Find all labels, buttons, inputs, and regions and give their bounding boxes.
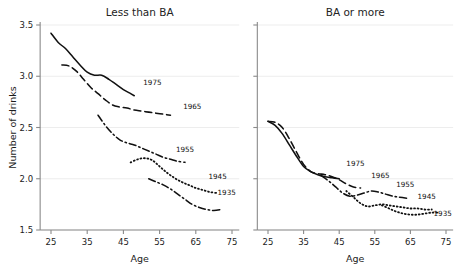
series-label-1935: 1935 xyxy=(218,188,236,197)
series-line-1935 xyxy=(382,205,439,214)
y-tick-label: 2.0 xyxy=(20,174,34,184)
series-line-1965 xyxy=(268,121,361,188)
series-label-1975: 1975 xyxy=(346,159,364,168)
chart-figure: 1.52.02.53.03.5253545556575Less than BAA… xyxy=(0,0,470,276)
series-label-1965: 1965 xyxy=(371,171,389,180)
x-tick-label: 75 xyxy=(441,237,452,247)
series-label-1975: 1975 xyxy=(143,78,161,87)
panel-title: BA or more xyxy=(326,6,385,18)
x-tick-label: 35 xyxy=(298,237,309,247)
x-tick-label: 65 xyxy=(190,237,201,247)
series-line-1965 xyxy=(62,65,171,115)
y-axis-title: Number of drinks xyxy=(7,86,18,168)
y-tick-label: 3.0 xyxy=(20,71,34,81)
x-axis-title: Age xyxy=(131,253,150,264)
y-tick-label: 3.5 xyxy=(20,20,34,30)
series-line-1945 xyxy=(131,158,218,193)
series-label-1945: 1945 xyxy=(208,172,226,181)
panel-title: Less than BA xyxy=(106,6,175,18)
series-label-1955: 1955 xyxy=(176,145,194,154)
x-tick-label: 45 xyxy=(334,237,345,247)
x-tick-label: 25 xyxy=(46,237,57,247)
chart-canvas: 1.52.02.53.03.5253545556575Less than BAA… xyxy=(0,0,470,276)
x-tick-label: 35 xyxy=(82,237,93,247)
x-tick-label: 25 xyxy=(263,237,274,247)
x-tick-label: 55 xyxy=(369,237,380,247)
y-tick-label: 2.5 xyxy=(20,123,34,133)
x-tick-label: 65 xyxy=(405,237,416,247)
series-label-1955: 1955 xyxy=(396,180,414,189)
series-label-1945: 1945 xyxy=(418,192,436,201)
series-label-1935: 1935 xyxy=(434,209,452,218)
series-label-1965: 1965 xyxy=(183,102,201,111)
x-tick-label: 45 xyxy=(118,237,129,247)
series-line-1975 xyxy=(268,121,339,178)
x-tick-label: 55 xyxy=(154,237,165,247)
y-tick-label: 1.5 xyxy=(20,225,34,235)
series-line-1955 xyxy=(98,115,185,162)
x-tick-label: 75 xyxy=(227,237,238,247)
x-axis-title: Age xyxy=(346,253,365,264)
